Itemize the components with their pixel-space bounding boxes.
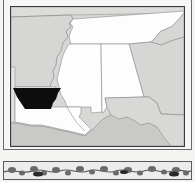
floral-vine-decoration (4, 162, 191, 179)
regional-map (11, 7, 184, 146)
decorative-border (3, 161, 192, 180)
map-frame (10, 6, 185, 147)
texas-edge (11, 67, 15, 122)
